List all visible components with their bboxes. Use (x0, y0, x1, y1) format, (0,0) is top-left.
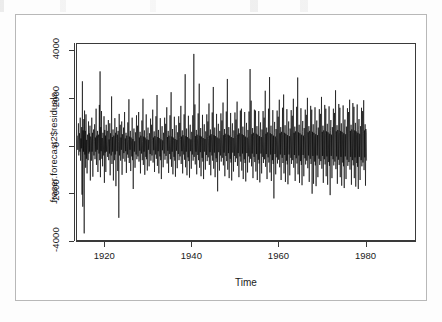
x-tick-label: 1920 (82, 250, 126, 261)
x-tick-label: 1960 (256, 250, 300, 261)
scan-noise-artifact (0, 0, 442, 12)
y-tick (69, 241, 74, 242)
x-tick (278, 242, 279, 247)
y-tick (69, 98, 74, 99)
y-tick (69, 50, 74, 51)
y-axis-title: fraser.forecast2$residuals (48, 48, 59, 248)
x-tick-label: 1980 (344, 250, 388, 261)
residuals-line (77, 54, 366, 233)
y-tick (69, 193, 74, 194)
x-tick (104, 242, 105, 247)
residuals-series (77, 44, 415, 240)
y-tick (69, 146, 74, 147)
y-axis-line (74, 43, 75, 241)
figure-page: -4000-2000020004000 fraser.forecast2$res… (0, 0, 442, 322)
x-tick (366, 242, 367, 247)
x-tick-label: 1940 (169, 250, 213, 261)
x-axis-title: Time (76, 277, 416, 288)
x-tick (191, 242, 192, 247)
plot-region (76, 43, 416, 241)
